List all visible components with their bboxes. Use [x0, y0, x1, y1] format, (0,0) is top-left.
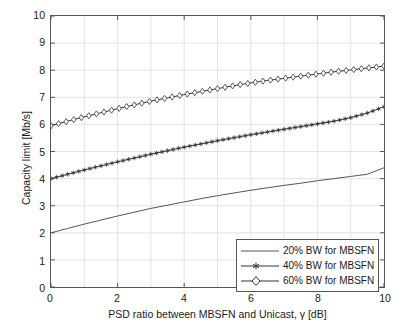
x-tick-10: 10	[370, 292, 400, 304]
y-axis-label: Capacity limit [Mb/s]	[20, 58, 32, 258]
x-tick-6: 6	[236, 292, 266, 304]
legend-item-40[interactable]: 40% BW for MBSFN	[240, 258, 374, 273]
x-tick-2: 2	[102, 292, 132, 304]
x-tick-4: 4	[169, 292, 199, 304]
x-axis-label: PSD ratio between MBSFN and Unicast, γ […	[50, 308, 385, 320]
legend-label-40: 40% BW for MBSFN	[280, 260, 374, 271]
legend: 20% BW for MBSFN 40% BW for MBSFN 60% BW…	[236, 239, 379, 292]
x-tick-0: 0	[35, 292, 65, 304]
legend-swatch-diamond-line	[240, 274, 280, 288]
y-axis-label-holder: Capacity limit [Mb/s]	[8, 12, 24, 288]
legend-item-20[interactable]: 20% BW for MBSFN	[240, 243, 374, 258]
legend-swatch-star-line	[240, 259, 280, 273]
chart-figure: 0123456789100246810 PSD ratio between MB…	[0, 0, 404, 334]
legend-swatch-plain-line	[240, 244, 280, 258]
legend-label-20: 20% BW for MBSFN	[280, 245, 374, 256]
x-tick-8: 8	[303, 292, 333, 304]
legend-item-60[interactable]: 60% BW for MBSFN	[240, 273, 374, 288]
legend-label-60: 60% BW for MBSFN	[280, 275, 374, 286]
